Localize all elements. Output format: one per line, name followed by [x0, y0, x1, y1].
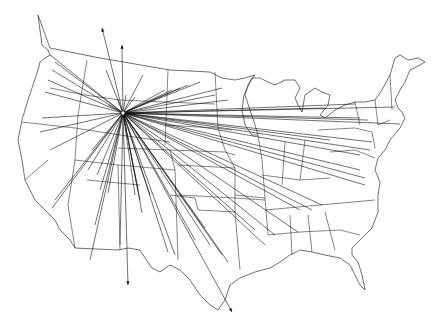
ray-line [123, 113, 298, 232]
arrow-line [123, 113, 128, 285]
ray-line [100, 113, 123, 190]
country-outline [18, 15, 425, 310]
arrow-line [102, 28, 123, 113]
ray-line [120, 113, 123, 245]
ray-line [123, 113, 370, 150]
arrowhead-icon [101, 28, 104, 32]
ray-line [123, 113, 205, 228]
ray-line [123, 113, 360, 155]
ray-line [123, 95, 215, 113]
ray-line [123, 113, 322, 205]
ray-line [52, 70, 123, 113]
ray-line [123, 113, 195, 240]
arrow-lines [101, 28, 232, 312]
ray-line [123, 113, 368, 120]
ray-line [45, 92, 123, 113]
ray-line [50, 113, 123, 150]
radiating-lines [40, 55, 400, 262]
us-map [0, 0, 443, 334]
arrowhead-icon [120, 45, 123, 49]
hub-marker [121, 111, 125, 115]
arrowhead-icon [126, 281, 129, 285]
ray-line [123, 113, 365, 185]
arrow-line [122, 45, 123, 113]
